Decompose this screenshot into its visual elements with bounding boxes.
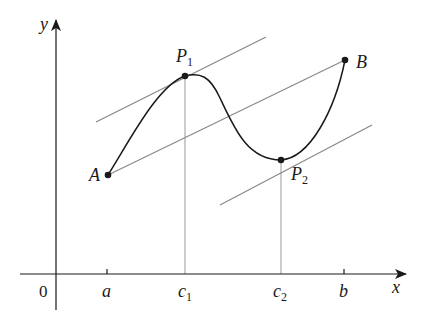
y-axis-label: y [38,14,48,34]
point-b [342,57,349,64]
label-p1: P1 [175,46,193,69]
point-a [105,172,112,179]
tick-label-c2: c2 [273,281,287,304]
label-p2: P2 [290,164,308,187]
tick-label-a: a [102,281,111,301]
point-p1 [182,73,189,80]
mvt-diagram: A B P1 P2 y x 0 a c1 c2 b [0,0,423,326]
point-p2 [278,157,285,164]
origin-label: 0 [39,282,48,301]
tick-label-c1: c1 [178,281,192,304]
x-axis-label: x [391,277,400,297]
label-a: A [88,165,101,185]
tick-label-b: b [339,281,348,301]
label-b: B [356,52,367,72]
